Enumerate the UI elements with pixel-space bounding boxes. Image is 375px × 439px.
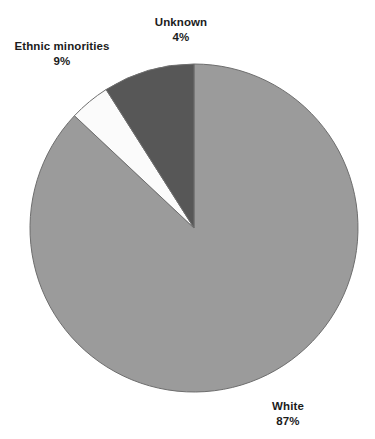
label-unknown-text: Unknown xyxy=(155,16,207,28)
label-unknown: Unknown 4% xyxy=(131,15,231,45)
pie-chart-figure: ................ Unknown 4% Ethnic minor… xyxy=(0,0,375,439)
label-ethnic-minorities-value: 9% xyxy=(10,54,114,69)
label-white: White 87% xyxy=(249,399,327,429)
pie-slices xyxy=(30,64,358,392)
label-ethnic-minorities-text: Ethnic minorities xyxy=(15,40,110,52)
label-white-text: White xyxy=(272,400,304,412)
label-ethnic-minorities: Ethnic minorities 9% xyxy=(10,39,114,69)
label-unknown-value: 4% xyxy=(131,30,231,45)
label-white-value: 87% xyxy=(249,414,327,429)
